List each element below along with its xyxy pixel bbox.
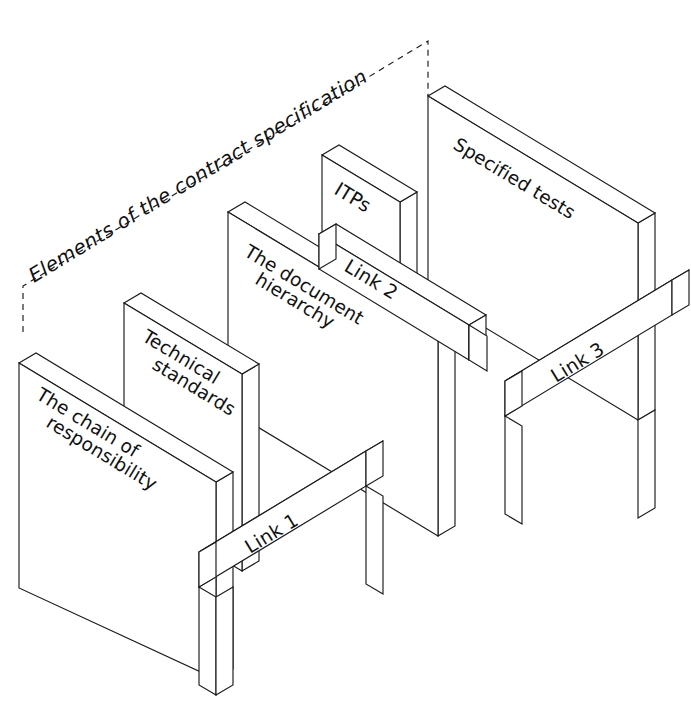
leg-technical-standards-side (216, 587, 233, 695)
diagram-canvas: Elements of the contract specification S… (0, 0, 691, 717)
beam-link-3-cap-left (505, 371, 522, 416)
beam-link-3-cap-right (672, 270, 689, 315)
leg-specified-tests (505, 416, 522, 524)
leg-document-hierarchy (366, 486, 383, 594)
leg-technical-standards (199, 587, 233, 695)
panel-document-hierarchy-side (438, 329, 455, 536)
leg-technical-standards-strip (199, 587, 216, 695)
leg-specified-tests-right (638, 410, 655, 518)
leg-specified-tests-right-visible (638, 410, 655, 518)
isometric-diagram: Elements of the contract specification S… (0, 0, 691, 717)
leg-specified-tests-strip (505, 416, 522, 524)
leg-document-hierarchy-strip (366, 486, 383, 594)
